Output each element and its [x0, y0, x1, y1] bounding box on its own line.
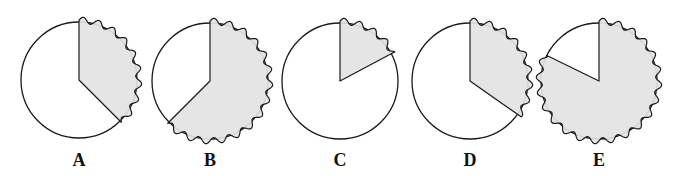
option-b-label: B	[204, 150, 216, 170]
option-e-label: E	[593, 150, 605, 170]
option-e[interactable]: E	[536, 18, 661, 170]
option-a-label: A	[73, 150, 86, 170]
option-d-label: D	[464, 150, 477, 170]
option-d[interactable]: D	[412, 18, 533, 170]
pie-options-figure: A B C D E	[0, 0, 685, 176]
option-c[interactable]: C	[282, 18, 398, 170]
option-a[interactable]: A	[21, 17, 142, 170]
option-b[interactable]: B	[152, 18, 273, 170]
option-c-label: C	[334, 150, 347, 170]
option-e-shaded-sector	[536, 18, 661, 143]
